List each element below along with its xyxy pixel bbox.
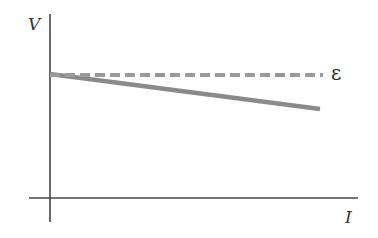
emf-label: ε [331, 63, 341, 83]
voltage-current-diagram: V ε I [0, 0, 378, 238]
y-axis-label: V [28, 16, 40, 33]
diagram-canvas [0, 0, 378, 238]
terminal-voltage-line [50, 74, 320, 109]
x-axis-label: I [345, 209, 352, 226]
